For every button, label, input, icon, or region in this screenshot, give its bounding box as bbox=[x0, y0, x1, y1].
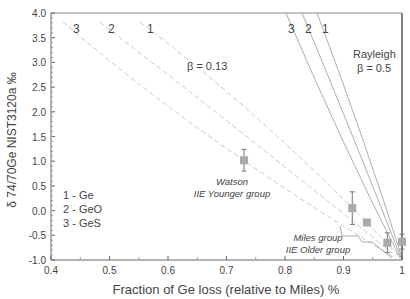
chart: 4.03.53.02.52.01.51.00.50.0-0.5-1.0 0.40… bbox=[0, 0, 410, 299]
y-axis-label: δ 74/70Ge NIST3120a ‰ bbox=[5, 72, 19, 207]
data-point bbox=[348, 204, 356, 212]
data-point bbox=[363, 218, 371, 226]
x-tick-label: 0.7 bbox=[220, 265, 234, 276]
data-point bbox=[398, 238, 406, 246]
y-tick-label: 0.5 bbox=[32, 181, 46, 192]
legend-item: 1 - Ge bbox=[63, 189, 94, 201]
curve-3-beta013 bbox=[63, 22, 395, 258]
x-tick-label: 0.5 bbox=[103, 265, 117, 276]
y-tick-label: 3.0 bbox=[32, 57, 46, 68]
curve-label: 1 bbox=[147, 22, 154, 36]
legend-item: 2 - GeO bbox=[63, 203, 103, 215]
data-point bbox=[240, 156, 248, 164]
x-tick-label: 0.6 bbox=[161, 265, 175, 276]
miles-group-label: IIE Older group bbox=[286, 244, 350, 255]
y-tick-label: 1.5 bbox=[32, 132, 46, 143]
x-tick-label: 0.8 bbox=[278, 265, 292, 276]
x-axis-label: Fraction of Ge loss (relative to Miles) … bbox=[113, 282, 340, 297]
miles-label: Miles group bbox=[293, 232, 342, 243]
beta-013-label: β = 0.13 bbox=[187, 60, 227, 72]
y-tick-label: 2.5 bbox=[32, 82, 46, 93]
y-tick-label: -0.5 bbox=[29, 230, 47, 241]
y-tick-label: 3.5 bbox=[32, 33, 46, 44]
rayleigh-label: Rayleigh bbox=[353, 48, 396, 60]
curve-label: 3 bbox=[288, 22, 295, 36]
curve-label: 2 bbox=[108, 22, 115, 36]
x-tick-label: 0.4 bbox=[44, 265, 58, 276]
x-tick-label: 0.9 bbox=[337, 265, 351, 276]
y-tick-label: 2.0 bbox=[32, 107, 46, 118]
x-tick-label: 1 bbox=[399, 265, 405, 276]
curve-label: 1 bbox=[322, 22, 329, 36]
data-point bbox=[383, 239, 391, 247]
curve-label: 2 bbox=[305, 22, 312, 36]
y-tick-label: 1.0 bbox=[32, 156, 46, 167]
legend-item: 3 - GeS bbox=[63, 217, 101, 229]
curve-label: 3 bbox=[73, 22, 80, 36]
x-ticks: 0.40.50.60.70.80.91 bbox=[44, 256, 405, 276]
curve-2-beta013 bbox=[100, 22, 396, 256]
watson-group-label: IIE Younger group bbox=[194, 188, 270, 199]
rayleigh-beta-label: β = 0.5 bbox=[357, 62, 391, 74]
watson-label: Watson bbox=[216, 176, 248, 187]
y-tick-label: 4.0 bbox=[32, 8, 46, 19]
beta-013-curves bbox=[63, 22, 398, 258]
y-tick-label: 0.0 bbox=[32, 206, 46, 217]
